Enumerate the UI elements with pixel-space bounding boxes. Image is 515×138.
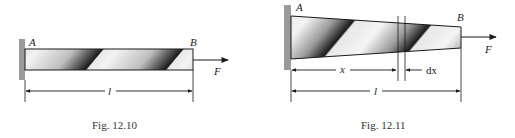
label-length: l <box>374 85 377 97</box>
tapered-bar <box>291 16 461 59</box>
fixed-wall <box>284 5 291 70</box>
label-x: x <box>339 63 345 75</box>
label-b: B <box>457 11 464 23</box>
figure-caption: Fig. 12.10 <box>92 119 137 131</box>
label-length: l <box>108 85 111 97</box>
label-force: F <box>484 43 492 55</box>
label-a: A <box>295 1 303 13</box>
figure-12-10: A B F l Fig. 12.10 <box>19 36 228 131</box>
label-b: B <box>190 36 197 48</box>
uniform-bar <box>25 49 193 70</box>
fixed-wall <box>19 39 25 80</box>
figure-caption: Fig. 12.11 <box>361 119 406 131</box>
label-dx: dx <box>426 64 438 76</box>
figure-12-11: A B F x dx l Fig. 12.11 <box>284 1 496 131</box>
label-a: A <box>28 36 36 48</box>
diagram-canvas: A B F l Fig. 12.10 A B F x dx l Fig. 12.… <box>0 0 515 138</box>
label-force: F <box>213 65 221 77</box>
